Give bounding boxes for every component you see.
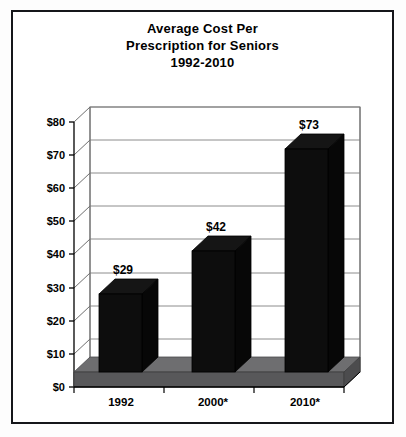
x-axis-ticks [74,387,344,393]
y-tick-label-70: $70 [47,149,65,161]
y-tick-label-0: $0 [53,381,65,393]
bar-2010[interactable] [285,134,344,372]
x-tick-label-1992: 1992 [108,396,134,408]
y-tick-label-80: $80 [47,116,65,128]
bar-2010-front-face [285,149,328,372]
bar-1992-value-label: $29 [113,263,133,277]
bar-1992-front-face [99,294,142,372]
depth-connectors [74,107,90,387]
x-tick-label-2010: 2010* [290,396,321,408]
x-axis-labels: 1992 2000* 2010* [108,396,320,408]
bar-2000[interactable] [192,236,251,372]
bar-1992-side-face [142,279,158,372]
bar-2000-front-face [192,251,235,372]
y-tick-label-30: $30 [47,282,65,294]
bar-2000-value-label: $42 [206,220,226,234]
y-axis-ticks [69,122,74,387]
bar-chart-plot: $80 $70 $60 $50 $40 $30 $20 $10 $0 [13,12,396,422]
y-tick-label-40: $40 [47,248,65,260]
y-tick-label-60: $60 [47,182,65,194]
bar-2000-side-face [235,236,251,372]
y-tick-label-10: $10 [47,348,65,360]
bar-1992[interactable] [99,279,158,372]
x-tick-label-2000: 2000* [198,396,229,408]
y-axis-labels: $80 $70 $60 $50 $40 $30 $20 $10 $0 [47,116,65,393]
y-tick-label-20: $20 [47,315,65,327]
y-tick-label-50: $50 [47,215,65,227]
chart-figure: Average Cost Per Prescription for Senior… [0,0,406,437]
chart-frame: Average Cost Per Prescription for Senior… [11,10,394,424]
bar-2010-side-face [328,134,344,372]
bar-2010-value-label: $73 [299,118,319,132]
